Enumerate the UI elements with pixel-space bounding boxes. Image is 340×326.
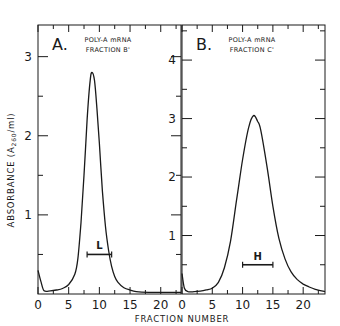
panel-subtitle-line: POLY-A mRNA — [228, 36, 275, 44]
pooled-range-label: L — [96, 240, 103, 251]
x-tick-label: 10 — [92, 298, 107, 312]
y-tick-label: 3 — [24, 50, 32, 64]
x-axis-title: FRACTION NUMBER — [135, 314, 230, 324]
x-tick-label: 20 — [296, 298, 311, 312]
y-axis-title-sub: 260 — [10, 133, 17, 147]
x-tick-label: 15 — [265, 298, 280, 312]
x-tick-label: 20 — [153, 298, 168, 312]
x-tick-label: 5 — [208, 298, 216, 312]
x-tick-label: 5 — [65, 298, 73, 312]
y-tick-label: 4 — [168, 53, 176, 67]
panel-b: 051015201234B.POLY-A mRNAFRACTION C'H — [168, 25, 325, 312]
y-tick-label: 2 — [168, 170, 176, 184]
panel-letter: A. — [52, 35, 68, 54]
x-tick-label: 0 — [34, 298, 42, 312]
y-tick-label: 2 — [24, 129, 32, 143]
panel-subtitle-line: POLY-A mRNA — [84, 36, 131, 44]
y-tick-label: 1 — [168, 229, 176, 243]
panel-letter: B. — [196, 35, 212, 54]
y-axis-title-suffix: /ml) — [6, 113, 16, 133]
chromatography-figure: 05101520123A.POLY-A mRNAFRACTION B'L0510… — [0, 0, 340, 326]
x-tick-label: 10 — [235, 298, 250, 312]
y-axis-title: ABSORBANCE (A260/ml) — [6, 113, 17, 228]
y-axis-title-prefix: ABSORBANCE (A — [6, 146, 16, 227]
y-tick-label: 3 — [168, 112, 176, 126]
panel-subtitle-line: FRACTION B' — [86, 46, 130, 54]
pooled-range-label: H — [254, 251, 262, 262]
series-line — [38, 73, 181, 293]
panel-subtitle-line: FRACTION C' — [230, 46, 274, 54]
panel-a: 05101520123A.POLY-A mRNAFRACTION B'L — [24, 25, 181, 312]
x-tick-label: 15 — [122, 298, 137, 312]
y-tick-label: 1 — [24, 208, 32, 222]
x-tick-label: 0 — [178, 298, 186, 312]
